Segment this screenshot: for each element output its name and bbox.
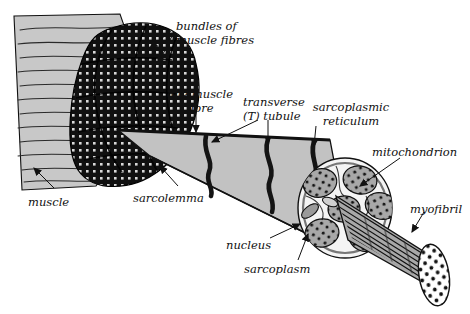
label-transverse-t-tubule: transverse (T) tubule [243,96,305,123]
muscle-structure-diagram: bundles of muscle fibres one muscle fibr… [0,0,470,314]
label-sarcoplasmic-reticulum: sarcoplasmic reticulum [307,101,395,128]
leader-sarcoplasm [298,234,308,260]
label-sarcoplasm: sarcoplasm [244,263,310,277]
label-bundles-of-muscle-fibres: bundles of muscle fibres [176,20,254,47]
label-sarcolemma: sarcolemma [133,192,204,206]
label-myofibril: myofibril [410,203,462,217]
label-muscle: muscle [28,196,69,210]
leader-nucleus [270,224,300,238]
label-mitochondrion: mitochondrion [372,146,457,160]
label-one-muscle-fibre: one muscle fibre [162,88,238,115]
label-nucleus: nucleus [226,239,271,253]
